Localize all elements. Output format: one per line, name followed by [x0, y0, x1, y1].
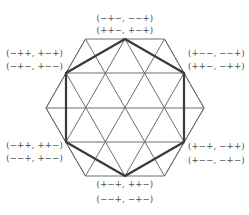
label-top-line2: (++−, +−+): [97, 25, 154, 35]
label-lower-left-line1: (−++, ++−): [6, 140, 63, 150]
label-upper-left-line2: (−+−, +−−): [6, 61, 63, 71]
label-upper-right-line1: (+−−, −−+): [188, 48, 245, 58]
label-bottom-line1: (+−+, ++−): [97, 179, 154, 189]
label-top-line1: (−+−, −−+): [97, 13, 154, 23]
label-bottom-line2: (−−+, −+−): [97, 194, 154, 204]
label-upper-right-line2: (++−, −++): [188, 61, 245, 71]
label-lower-left-line2: (−−+, +−−): [6, 153, 63, 163]
triangular-lattice: [46, 39, 204, 176]
label-lower-right-line1: (+−+, −++): [188, 141, 245, 151]
label-upper-left-line1: (−++, +−+): [6, 48, 63, 58]
label-lower-right-line2: (+−−, −+−): [188, 155, 245, 165]
